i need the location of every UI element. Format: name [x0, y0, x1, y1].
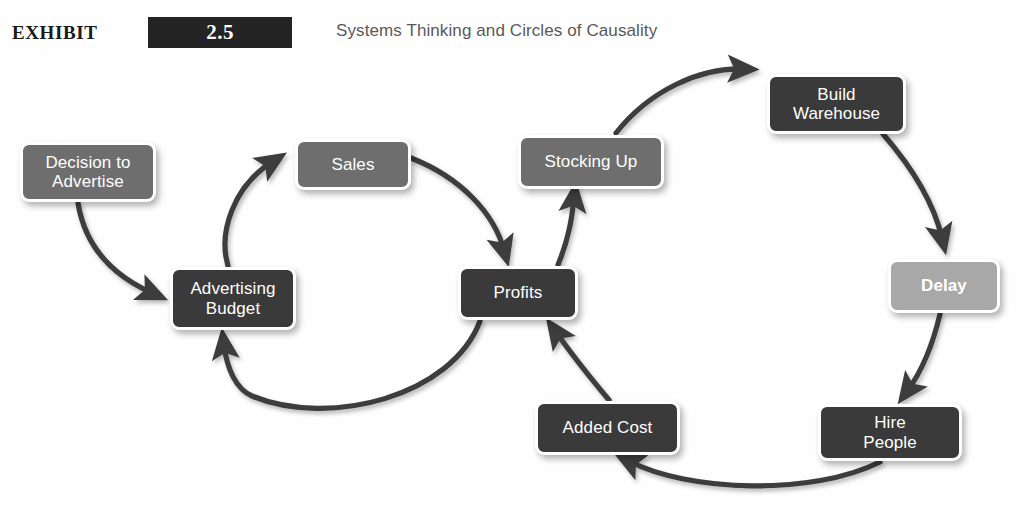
edge-profits-to-stocking-up [558, 198, 574, 265]
edge-profits-to-advertising-budget [224, 321, 480, 408]
node-hire-people[interactable]: Hire People [818, 404, 962, 461]
node-sales[interactable]: Sales [295, 139, 411, 190]
edge-delay-to-hire-people [908, 314, 940, 390]
edge-added-cost-to-profits [556, 332, 609, 400]
edge-decision-to-advertising-budget [78, 203, 152, 293]
edge-hire-people-to-added-cost [629, 461, 880, 486]
node-delay[interactable]: Delay [888, 259, 1000, 313]
node-profits[interactable]: Profits [458, 266, 578, 320]
node-build-warehouse[interactable]: Build Warehouse [767, 74, 906, 134]
node-stocking-up[interactable]: Stocking Up [518, 135, 664, 189]
edge-sales-to-profits [411, 158, 504, 250]
node-advertising-budget[interactable]: Advertising Budget [170, 267, 296, 330]
edge-stocking-up-to-build-warehouse [616, 69, 742, 133]
node-added-cost[interactable]: Added Cost [535, 401, 680, 455]
edge-advertising-budget-to-sales [225, 162, 272, 266]
node-decision-to-advertise[interactable]: Decision to Advertise [20, 142, 156, 202]
edge-build-warehouse-to-delay [883, 134, 942, 238]
causal-loop-diagram: Decision to AdvertiseAdvertising BudgetS… [0, 0, 1026, 512]
